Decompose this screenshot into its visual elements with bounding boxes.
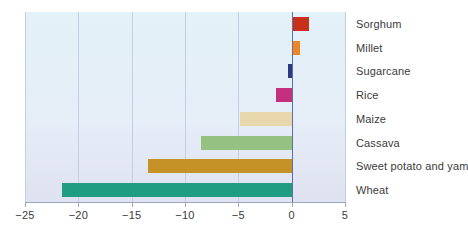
bar-sorghum (292, 17, 309, 31)
x-tick-3 (185, 202, 186, 207)
category-label-rice: Rice (356, 90, 379, 101)
category-label-sugarcane: Sugarcane (356, 66, 411, 77)
category-labels: SorghumMilletSugarcaneRiceMaizeCassavaSw… (356, 12, 466, 202)
bar-row (25, 83, 345, 107)
x-tick-5 (292, 202, 293, 207)
bar-row (25, 12, 345, 36)
x-tick-label-4: −5 (232, 209, 245, 221)
bar-rice (276, 88, 292, 102)
bar-row (25, 60, 345, 84)
x-tick-0 (25, 202, 26, 207)
gridline-6 (345, 12, 346, 202)
category-label-sweet-potato-and-yam: Sweet potato and yam (356, 161, 468, 172)
bar-wheat (62, 183, 291, 197)
bar-maize (240, 112, 291, 126)
x-tick-label-6: 5 (342, 209, 348, 221)
x-tick-label-2: −15 (122, 209, 141, 221)
bar-row (25, 36, 345, 60)
category-label-wheat: Wheat (356, 185, 389, 196)
bars-layer (25, 12, 345, 202)
x-tick-label-5: 0 (288, 209, 294, 221)
bar-row (25, 131, 345, 155)
bar-millet (292, 41, 301, 55)
x-tick-2 (132, 202, 133, 207)
bar-row (25, 178, 345, 202)
plot-area (25, 12, 345, 202)
x-tick-label-1: −20 (69, 209, 88, 221)
category-label-millet: Millet (356, 43, 383, 54)
category-label-maize: Maize (356, 114, 386, 125)
x-tick-1 (78, 202, 79, 207)
bar-cassava (201, 136, 292, 150)
x-tick-label-3: −10 (175, 209, 194, 221)
x-tick-4 (238, 202, 239, 207)
category-label-cassava: Cassava (356, 138, 400, 149)
x-tick-6 (345, 202, 346, 207)
zero-line (292, 12, 293, 202)
bar-row (25, 155, 345, 179)
bar-sweet-potato-and-yam (148, 159, 292, 173)
x-tick-label-0: −25 (15, 209, 34, 221)
bar-row (25, 107, 345, 131)
category-label-sorghum: Sorghum (356, 19, 402, 30)
